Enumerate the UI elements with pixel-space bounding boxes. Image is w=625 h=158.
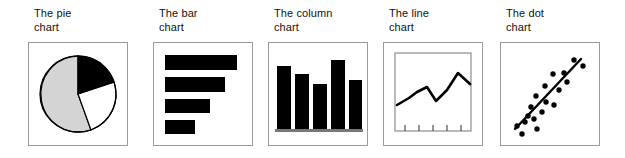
column-segment [331, 60, 345, 129]
caption-line-2: chart [506, 21, 531, 33]
scatter-point-cloud [514, 57, 585, 136]
scatter-point [551, 102, 556, 107]
column-segment [349, 80, 362, 129]
caption-line-2: chart [389, 21, 414, 33]
scatter-point [564, 79, 569, 84]
line-axis-ticks [405, 125, 461, 131]
scatter-point [528, 104, 533, 109]
panel-column-chart: The column chart [268, 0, 368, 158]
panel-caption-column: The column chart [274, 7, 332, 34]
scatter-point [571, 57, 576, 62]
chart-frame-line [383, 42, 483, 146]
scatter-point [531, 116, 536, 121]
panel-pie-chart: The pie chart [28, 0, 128, 158]
scatter-trend-line [515, 59, 581, 129]
caption-line-2: chart [274, 21, 299, 33]
panel-caption-pie: The pie chart [34, 7, 71, 34]
column-baseline-axis [275, 129, 363, 132]
chart-type-illustration-strip: The pie chart The bar chart [0, 0, 625, 158]
panel-caption-line: The line chart [389, 7, 429, 34]
scatter-point [525, 113, 530, 118]
column-segment [277, 66, 291, 129]
panel-caption-bar: The bar chart [159, 7, 198, 34]
scatter-point [519, 131, 524, 136]
scatter-point [514, 123, 519, 128]
panel-dot-chart: The dot chart [500, 0, 600, 158]
caption-line-1: The column [274, 7, 332, 19]
bar-segment [165, 77, 225, 92]
caption-line-1: The bar [159, 7, 198, 19]
bar-chart-graphic [154, 43, 252, 145]
column-segment [313, 84, 327, 129]
chart-frame-pie [28, 42, 128, 146]
chart-frame-bar [153, 42, 253, 146]
scatter-point [542, 83, 547, 88]
caption-line-2: chart [159, 21, 184, 33]
line-series-path [397, 73, 470, 105]
scatter-point [534, 126, 539, 131]
panel-caption-dot: The dot chart [506, 7, 544, 34]
bar-segment [165, 120, 195, 134]
column-chart-graphic [269, 43, 367, 145]
line-plot-frame [395, 53, 471, 131]
pie-chart-graphic [29, 43, 127, 145]
caption-line-1: The pie [34, 7, 71, 19]
caption-line-1: The dot [506, 7, 544, 19]
column-segment [295, 74, 309, 129]
scatter-point [561, 70, 566, 75]
panel-bar-chart: The bar chart [153, 0, 253, 158]
scatter-point [543, 99, 548, 104]
scatter-point [556, 87, 561, 92]
bar-segment [165, 99, 210, 113]
scatter-point [522, 119, 527, 124]
scatter-point [539, 109, 544, 114]
caption-line-2: chart [34, 21, 59, 33]
caption-line-1: The line [389, 7, 429, 19]
chart-frame-dot [500, 42, 600, 146]
panel-line-chart: The line chart [383, 0, 483, 158]
dot-chart-graphic [501, 43, 599, 145]
scatter-point [580, 63, 585, 68]
scatter-point [533, 93, 538, 98]
chart-frame-column [268, 42, 368, 146]
bar-segment [165, 55, 237, 70]
line-chart-graphic [384, 43, 482, 145]
scatter-point [550, 71, 555, 76]
